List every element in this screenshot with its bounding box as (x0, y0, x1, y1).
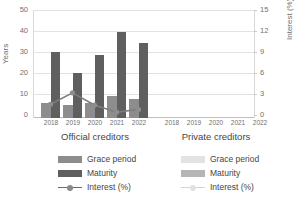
xtick-official-2022: 2022 (132, 120, 146, 127)
xtick-official-2019: 2019 (66, 120, 80, 127)
legend-item-official-maturity[interactable]: Maturity (58, 166, 136, 180)
tickmark-15 (254, 10, 257, 11)
y-left-tick-40: 40 (20, 27, 33, 35)
bar-official-maturity-2018 (51, 52, 60, 118)
y-left-tick-50: 50 (20, 6, 33, 14)
bar-official-grace-2018 (41, 103, 51, 118)
legend-item-private-maturity[interactable]: Maturity (181, 166, 259, 180)
xtick-private-2021: 2021 (231, 120, 245, 127)
bar-official-grace-2020 (85, 103, 95, 118)
axis-left-spine (33, 10, 34, 118)
y-left-tick-0: 0 (24, 111, 33, 119)
legend-label-official-interest: Interest (%) (87, 182, 131, 192)
y-axis-right-title: Interest (%) (285, 0, 294, 40)
bar-official-maturity-2021 (117, 32, 126, 118)
bar-official-maturity-2019 (73, 73, 82, 118)
y-right-tick-12: 12 (255, 27, 268, 35)
xtick-private-2019: 2019 (187, 120, 201, 127)
legend-item-private-grace[interactable]: Grace period (181, 152, 259, 166)
xtick-official-2018: 2018 (44, 120, 58, 127)
xtick-private-2018: 2018 (165, 120, 179, 127)
legend-swatch-grace-light-icon (181, 156, 205, 163)
legend-swatch-grace-icon (58, 156, 82, 163)
tickmark-0 (254, 115, 257, 116)
legend-label-official-grace: Grace period (87, 154, 136, 164)
xtick-private-2022: 2022 (253, 120, 267, 127)
xtick-official-2021: 2021 (110, 120, 124, 127)
legend-item-official-interest[interactable]: Interest (%) (58, 180, 136, 194)
bar-official-grace-2022 (129, 99, 139, 118)
y-right-tick-15: 15 (255, 6, 268, 14)
legend-official: Grace period Maturity Interest (%) (58, 152, 136, 194)
bar-official-grace-2021 (107, 96, 117, 118)
legend-label-official-maturity: Maturity (87, 168, 117, 178)
chart-container: Years Interest (%) 50 40 30 20 10 0 15 1… (0, 0, 296, 199)
legend-label-private-maturity: Maturity (210, 168, 240, 178)
legend-label-private-grace: Grace period (210, 154, 259, 164)
legend-swatch-maturity-light-icon (181, 170, 205, 177)
gridline-50 (33, 10, 255, 11)
xtick-official-2020: 2020 (88, 120, 102, 127)
legend-private: Grace period Maturity Interest (%) (181, 152, 259, 194)
y-axis-left-title: Years (1, 44, 10, 64)
tickmark-6 (254, 73, 257, 74)
legend-line-marker-interest-icon (58, 184, 82, 191)
legend-item-private-interest[interactable]: Interest (%) (181, 180, 259, 194)
tickmark-9 (254, 52, 257, 53)
bar-official-maturity-2022 (139, 43, 148, 118)
y-left-tick-10: 10 (20, 90, 33, 98)
legend-item-official-grace[interactable]: Grace period (58, 152, 136, 166)
bar-official-grace-2019 (63, 105, 73, 118)
y-left-tick-20: 20 (20, 69, 33, 77)
gridline-40 (33, 31, 255, 32)
y-left-tick-30: 30 (20, 48, 33, 56)
plot-area: 50 40 30 20 10 0 15 12 9 6 3 0 (33, 10, 255, 118)
legend-line-marker-interest-light-icon (181, 184, 205, 191)
panel-title-private: Private creditors (182, 131, 251, 142)
panel-title-official: Official creditors (61, 131, 129, 142)
tickmark-12 (254, 31, 257, 32)
legend-swatch-maturity-icon (58, 170, 82, 177)
tickmark-3 (254, 94, 257, 95)
axis-right-spine (254, 10, 255, 118)
bar-official-maturity-2020 (95, 55, 104, 118)
xtick-private-2020: 2020 (209, 120, 223, 127)
legend-label-private-interest: Interest (%) (210, 182, 254, 192)
